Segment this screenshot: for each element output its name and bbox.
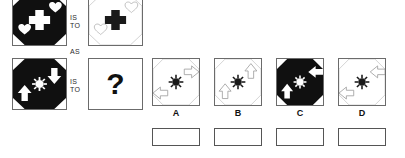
- option-label-d: D: [338, 108, 386, 118]
- connector-is-to-2: IS TO: [70, 78, 84, 94]
- option-label-b: B: [214, 108, 262, 118]
- puzzle-stage: IS TO AS: [0, 0, 405, 158]
- option-panel-b[interactable]: [214, 58, 262, 106]
- answer-box-d[interactable]: [338, 128, 386, 146]
- option-panel-d[interactable]: [338, 58, 386, 106]
- sun-icon: [32, 77, 47, 91]
- option-label-a: A: [152, 108, 200, 118]
- stimulus-panel-2: [88, 0, 143, 46]
- connector-is-to-1: IS TO: [70, 14, 84, 30]
- connector-as: AS: [70, 48, 84, 56]
- sun-icon: [294, 76, 307, 89]
- option-panel-c[interactable]: [276, 58, 324, 106]
- stimulus-panel-1: [12, 0, 67, 46]
- answer-box-a[interactable]: [152, 128, 200, 146]
- answer-box-b[interactable]: [214, 128, 262, 146]
- option-label-c: C: [276, 108, 324, 118]
- stimulus-panel-3: [12, 58, 67, 110]
- answer-box-c[interactable]: [276, 128, 324, 146]
- option-panel-a[interactable]: [152, 58, 200, 106]
- question-mark: ?: [88, 58, 143, 110]
